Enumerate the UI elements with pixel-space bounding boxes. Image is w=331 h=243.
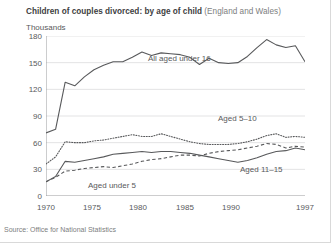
series-label-aged-11-15: Aged 11–15: [240, 165, 283, 174]
series-label-aged-under-5: Aged under 5: [88, 181, 136, 190]
y-tick-label-0: 0: [20, 192, 42, 201]
chart-title-main: Children of couples divorced: by age of …: [26, 7, 202, 16]
x-tick-label-1997: 1997: [288, 203, 322, 212]
y-tick-label-150: 150: [20, 59, 42, 68]
x-tick-label-1975: 1975: [75, 203, 109, 212]
y-tick-label-180: 180: [20, 32, 42, 41]
x-tick-label-1980: 1980: [121, 203, 155, 212]
y-axis-unit-label: Thousands: [26, 23, 66, 32]
series-line-aged-5-10: [46, 134, 305, 164]
series-label-aged-5-10: Aged 5–10: [218, 114, 257, 123]
chart-figure: Children of couples divorced: by age of …: [0, 0, 331, 243]
series-label-all-under-16: All aged under 16: [148, 54, 211, 63]
x-tick-label-1970: 1970: [29, 203, 63, 212]
chart-title-region: (England and Wales): [204, 7, 281, 16]
y-tick-label-120: 120: [20, 85, 42, 94]
y-tick-label-60: 60: [20, 139, 42, 148]
y-tick-label-30: 30: [20, 165, 42, 174]
source-note: Source: Office for National Statistics: [4, 226, 116, 233]
x-tick-label-1985: 1985: [168, 203, 202, 212]
chart-title: Children of couples divorced: by age of …: [26, 7, 281, 16]
x-tick-label-1990: 1990: [214, 203, 248, 212]
series-line-aged-under-5: [46, 144, 305, 182]
y-tick-label-90: 90: [20, 112, 42, 121]
